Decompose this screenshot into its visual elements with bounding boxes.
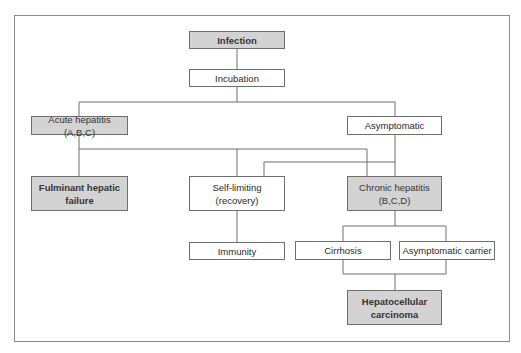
node-asymptomatic: Asymptomatic xyxy=(347,116,442,135)
node-label: Infection xyxy=(217,34,257,47)
node-label: Hepatocellular carcinoma xyxy=(362,295,427,321)
node-fulminant-hepatic-failure: Fulminant hepatic failure xyxy=(31,176,128,211)
node-chronic-hepatitis: Chronic hepatitis (B,C,D) xyxy=(347,176,442,211)
node-label: Chronic hepatitis (B,C,D) xyxy=(359,181,430,207)
node-label: Fulminant hepatic failure xyxy=(39,181,120,207)
node-hepatocellular-carcinoma: Hepatocellular carcinoma xyxy=(347,290,442,325)
node-self-limiting: Self-limiting (recovery) xyxy=(189,176,285,211)
node-label: Immunity xyxy=(218,245,257,258)
node-label: Asymptomatic xyxy=(365,119,425,132)
node-incubation: Incubation xyxy=(189,69,285,87)
node-label: Acute hepatitis (A,B,C) xyxy=(32,113,127,139)
node-label: Asymptomatic carrier xyxy=(402,244,491,257)
node-label: Cirrhosis xyxy=(324,244,361,257)
node-cirrhosis: Cirrhosis xyxy=(295,241,391,260)
node-acute-hepatitis: Acute hepatitis (A,B,C) xyxy=(31,116,128,135)
node-infection: Infection xyxy=(189,31,285,49)
node-label: Incubation xyxy=(215,72,259,85)
node-asymptomatic-carrier: Asymptomatic carrier xyxy=(399,241,495,260)
node-label: Self-limiting (recovery) xyxy=(212,181,261,207)
node-immunity: Immunity xyxy=(189,242,285,260)
